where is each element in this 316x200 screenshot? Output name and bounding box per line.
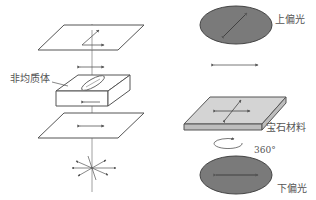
upper-polarizer-plate [38,25,144,50]
lower-polarizer-disc [200,156,272,194]
rotation-arrow-icon [214,139,242,149]
upper-polarizer-label: 上偏光 [275,14,305,26]
inhomogeneous-label: 非均质体 [10,73,50,85]
polarizing-diagram [0,0,316,200]
anisotropic-block [56,73,130,106]
lower-polarizer-label: 下偏光 [277,183,307,195]
upper-polarizer-disc [200,6,272,44]
rotation-degree-label: 360° [254,145,276,155]
gem-material-label: 宝石材料 [266,122,306,134]
lower-polarizer-plate [38,113,144,138]
natural-light-star-icon [72,156,116,180]
